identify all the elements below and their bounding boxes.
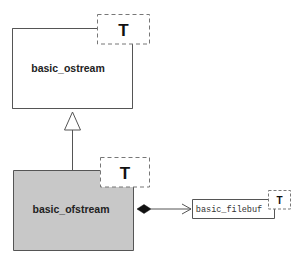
class-name-basic-filebuf: basic_filebuf: [196, 205, 262, 215]
template-param-t: T: [276, 195, 282, 206]
template-param-box-basic-ofstream: T: [101, 158, 150, 188]
template-param-t: T: [120, 164, 131, 183]
class-basic-filebuf[interactable]: basic_filebuf: [193, 200, 275, 219]
template-param-t: T: [118, 21, 129, 40]
class-name-basic-ofstream: basic_ofstream: [32, 203, 109, 215]
class-name-basic-ostream: basic_ostream: [31, 62, 105, 74]
template-param-box-basic-ostream: T: [98, 15, 150, 45]
uml-diagram: basic_ostream T basic_ofstream T basic_f…: [0, 0, 303, 262]
composition-diamond-icon: [137, 205, 151, 214]
inheritance-arrow: [65, 112, 81, 170]
composition-association: [137, 204, 191, 214]
template-param-box-basic-filebuf: T: [269, 191, 291, 210]
